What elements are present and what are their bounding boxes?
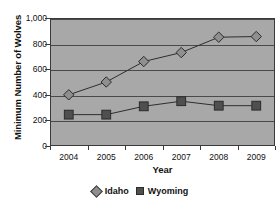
square-marker-icon [136, 187, 144, 195]
data-point-idaho-2004 [64, 90, 74, 100]
data-point-wyoming-2004 [64, 110, 73, 119]
series-layer [50, 18, 275, 146]
x-tick-label: 2006 [124, 152, 164, 162]
x-tick-label: 2009 [236, 152, 276, 162]
x-tick-mark [125, 146, 126, 150]
series-line-idaho [69, 37, 257, 95]
legend-item-idaho: Idaho [92, 186, 129, 196]
data-point-wyoming-2009 [252, 101, 261, 110]
y-tick-label: 800 [7, 40, 47, 49]
data-point-idaho-2005 [101, 77, 111, 87]
series-line-wyoming [69, 101, 257, 114]
y-tick-label: 600 [7, 65, 47, 74]
data-point-wyoming-2006 [139, 102, 148, 111]
data-point-idaho-2007 [176, 47, 186, 57]
y-tick-label: 1,000 [7, 14, 47, 23]
data-point-idaho-2009 [251, 31, 261, 41]
x-tick-label: 2005 [86, 152, 126, 162]
legend-label-idaho: Idaho [105, 186, 129, 196]
x-tick-label: 2004 [49, 152, 89, 162]
x-tick-mark [200, 146, 201, 150]
data-point-wyoming-2007 [177, 97, 186, 106]
x-axis-title: Year [50, 164, 275, 175]
data-point-idaho-2006 [139, 56, 149, 66]
x-tick-label: 2008 [199, 152, 239, 162]
chart-legend: Idaho Wyoming [0, 186, 280, 196]
x-tick-mark [163, 146, 164, 150]
y-axis-title: Minimum Number of Wolves [12, 3, 23, 153]
data-point-idaho-2008 [214, 32, 224, 42]
legend-label-wyoming: Wyoming [148, 186, 188, 196]
x-tick-label: 2007 [161, 152, 201, 162]
diamond-marker-icon [90, 185, 103, 198]
x-tick-mark [238, 146, 239, 150]
y-tick-label: 400 [7, 91, 47, 100]
y-tick-label: 0 [7, 142, 47, 151]
x-tick-mark [275, 146, 276, 150]
y-tick-label: 200 [7, 116, 47, 125]
wolf-population-line-chart: Minimum Number of Wolves 02004006008001,… [0, 0, 280, 206]
data-point-wyoming-2005 [102, 110, 111, 119]
x-tick-mark [88, 146, 89, 150]
x-tick-mark [50, 146, 51, 150]
data-point-wyoming-2008 [214, 101, 223, 110]
legend-item-wyoming: Wyoming [136, 186, 188, 196]
